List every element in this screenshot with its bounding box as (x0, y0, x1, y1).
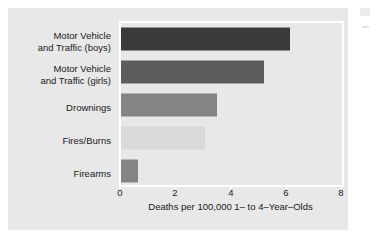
x-tick-label-4: 4 (219, 187, 243, 198)
bar-row (121, 89, 342, 122)
bar-row (121, 56, 342, 89)
x-axis-title: Deaths per 100,000 1– to 4–Year–Olds (119, 201, 342, 212)
category-label-motor-vehicle-girls: Motor Vehicle and Traffic (girls) (40, 63, 111, 86)
x-tick-label-8: 8 (329, 187, 353, 198)
x-tick-label-6: 6 (274, 187, 298, 198)
bar-drownings[interactable] (121, 93, 217, 116)
bar-fires-burns[interactable] (121, 126, 205, 149)
bar-motor-vehicle-girls[interactable] (121, 61, 264, 84)
bar-row (121, 23, 342, 56)
category-label-drownings: Drownings (66, 102, 111, 114)
x-tick-label-2: 2 (163, 187, 187, 198)
scan-artifact-icon (362, 26, 369, 28)
bar-motor-vehicle-boys[interactable] (121, 28, 290, 51)
bar-firearms[interactable] (121, 159, 138, 182)
scan-artifact-icon (360, 8, 370, 16)
category-label-motor-vehicle-boys: Motor Vehicle and Traffic (boys) (38, 30, 111, 53)
plot-area (119, 21, 344, 187)
category-label-firearms: Firearms (74, 168, 111, 180)
bar-row (121, 154, 342, 187)
bar-row (121, 121, 342, 154)
x-tick-label-0: 0 (108, 187, 132, 198)
category-label-fires-burns: Fires/Burns (62, 135, 111, 147)
bar-chart-figure: Motor Vehicle and Traffic (boys) Motor V… (0, 0, 379, 239)
